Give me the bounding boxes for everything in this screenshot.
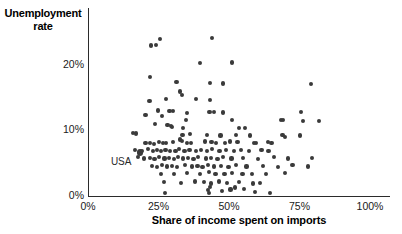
- data-point: [199, 148, 203, 152]
- data-point: [221, 155, 225, 159]
- data-point: [237, 180, 241, 184]
- data-point: [190, 164, 194, 168]
- data-point: [207, 110, 211, 114]
- data-point: [202, 180, 206, 184]
- data-point: [276, 165, 280, 169]
- data-point: [179, 181, 183, 185]
- usa-annotation-label: USA: [111, 156, 132, 167]
- data-point: [193, 179, 197, 183]
- data-point: [221, 110, 225, 114]
- data-point: [281, 118, 285, 122]
- data-point: [204, 156, 208, 160]
- data-point: [258, 181, 262, 185]
- data-point: [210, 147, 214, 151]
- data-point: [159, 172, 163, 176]
- data-point: [229, 156, 233, 160]
- data-point: [168, 149, 172, 153]
- data-point: [153, 122, 157, 126]
- data-point: [224, 148, 228, 152]
- data-point: [189, 141, 193, 145]
- data-point: [143, 113, 147, 117]
- data-point: [217, 149, 221, 153]
- data-point: [171, 109, 175, 113]
- data-point: [306, 164, 310, 168]
- data-point: [181, 126, 185, 130]
- data-point: [191, 157, 195, 161]
- data-point: [244, 164, 248, 168]
- data-point: [165, 164, 169, 168]
- data-point: [175, 165, 179, 169]
- data-point: [170, 164, 174, 168]
- data-point: [247, 149, 251, 153]
- data-point: [195, 164, 199, 168]
- data-point: [149, 43, 153, 47]
- data-point: [283, 135, 287, 139]
- data-point: [155, 165, 159, 169]
- data-point: [207, 191, 211, 195]
- data-point: [143, 141, 147, 145]
- data-point: [317, 119, 321, 123]
- data-point: [183, 163, 187, 167]
- data-point: [148, 75, 152, 79]
- data-point: [261, 164, 265, 168]
- data-point: [228, 187, 232, 191]
- data-point: [162, 156, 166, 160]
- data-point: [196, 155, 200, 159]
- data-point: [163, 191, 167, 195]
- data-point: [180, 93, 184, 97]
- x-tick-label: 0%: [60, 200, 116, 212]
- data-point: [230, 118, 234, 122]
- data-point: [152, 157, 156, 161]
- data-point: [298, 133, 302, 137]
- data-point: [233, 185, 237, 189]
- data-point: [218, 133, 222, 137]
- x-tick-label: 25%: [131, 200, 187, 212]
- data-point: [180, 133, 184, 137]
- data-point: [176, 155, 180, 159]
- data-point: [217, 179, 221, 183]
- data-point: [184, 118, 188, 122]
- data-point: [162, 180, 166, 184]
- data-point: [243, 126, 247, 130]
- data-point: [160, 114, 164, 118]
- data-point: [182, 149, 186, 153]
- data-point: [158, 37, 162, 41]
- data-point: [309, 82, 313, 86]
- data-point: [219, 164, 223, 168]
- data-point: [237, 126, 241, 130]
- data-point: [180, 139, 184, 143]
- x-tick-label: 50%: [201, 200, 257, 212]
- data-point: [163, 148, 167, 152]
- data-point: [301, 119, 305, 123]
- data-point: [250, 172, 254, 176]
- scatter-chart-figure: Unemployment rate 0%10%20% Share of inco…: [0, 0, 402, 234]
- data-point: [156, 108, 160, 112]
- data-point: [194, 149, 198, 153]
- data-point: [239, 148, 243, 152]
- data-point: [174, 80, 178, 84]
- data-point: [140, 149, 144, 153]
- data-point: [226, 165, 230, 169]
- data-point: [170, 125, 174, 129]
- data-point: [254, 141, 258, 145]
- data-point: [225, 181, 229, 185]
- data-point: [232, 149, 236, 153]
- data-point: [198, 61, 202, 65]
- data-point: [187, 148, 191, 152]
- data-point: [150, 164, 154, 168]
- data-point: [146, 147, 150, 151]
- data-point: [264, 172, 268, 176]
- data-point: [154, 43, 158, 47]
- data-point: [188, 132, 192, 136]
- data-point: [142, 156, 146, 160]
- data-point: [212, 110, 216, 114]
- data-point: [212, 164, 216, 168]
- data-point: [200, 165, 204, 169]
- data-point: [228, 139, 232, 143]
- data-point: [205, 149, 209, 153]
- data-point: [186, 156, 190, 160]
- data-point: [251, 181, 255, 185]
- data-point: [240, 172, 244, 176]
- data-point: [266, 149, 270, 153]
- data-point: [242, 187, 246, 191]
